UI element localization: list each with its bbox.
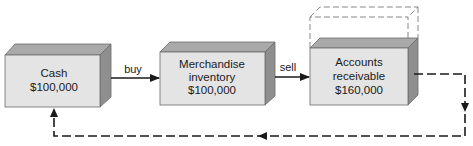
merchandise-box-side	[265, 42, 275, 105]
up-arrowhead-icon	[50, 108, 58, 117]
receivables-box-label-1: Accounts	[335, 56, 383, 68]
sell-arrow: sell	[275, 61, 309, 77]
buy-label: buy	[124, 63, 142, 75]
receivables-box-amount: $160,000	[335, 84, 383, 96]
down-arrowhead-icon	[461, 103, 469, 112]
sell-label: sell	[280, 61, 297, 73]
left-arrowhead-icon	[258, 132, 267, 140]
receivables-box-side	[408, 38, 418, 105]
receivables-box-top	[310, 38, 418, 48]
receivables-box-label-2: receivable	[333, 70, 385, 82]
merchandise-box-top	[160, 42, 275, 52]
cash-box-top	[5, 44, 111, 55]
operating-cycle-diagram: Cash $100,000 Merchandise inventory $100…	[0, 0, 473, 146]
cash-box-amount: $100,000	[30, 81, 78, 93]
merchandise-box-label-2: inventory	[189, 71, 236, 83]
cash-box-label: Cash	[41, 67, 68, 79]
merchandise-box-amount: $100,000	[188, 84, 236, 96]
cash-box-side	[100, 44, 111, 107]
receivables-box: Accounts receivable $160,000	[310, 7, 418, 105]
buy-arrow: buy	[111, 63, 159, 78]
merchandise-box: Merchandise inventory $100,000	[160, 42, 275, 105]
merchandise-box-label-1: Merchandise	[179, 58, 245, 70]
cash-box: Cash $100,000	[5, 44, 111, 107]
